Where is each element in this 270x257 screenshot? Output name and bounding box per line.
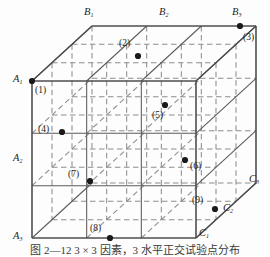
vertex-label-subscript: 1 <box>206 233 209 239</box>
lattice-point-9 <box>212 206 218 212</box>
vertex-label-subscript: 2 <box>230 208 233 214</box>
point-label-9: (9) <box>192 196 203 206</box>
vertex-label-subscript: 2 <box>19 158 22 164</box>
vertex-label-base: C <box>223 202 230 213</box>
point-label-5: (5) <box>152 111 163 121</box>
vertex-label-C3: C3 <box>249 174 259 185</box>
lattice-point-dots <box>29 23 243 241</box>
lattice-point-1 <box>29 78 35 84</box>
grid-line-depth <box>141 183 201 238</box>
lattice-point-5 <box>162 102 168 108</box>
vertex-label-subscript: 1 <box>19 79 22 85</box>
lattice-point-2 <box>135 53 141 59</box>
grid-line-depth <box>32 183 92 238</box>
grid-line-depth <box>196 78 256 133</box>
grid-line-depth <box>141 26 201 81</box>
cube-edge <box>32 26 92 81</box>
lattice-point-6 <box>182 157 188 163</box>
grid-line-depth <box>32 131 92 186</box>
figure-caption: 图 2—12 3 × 3 因素，3 水平正交试验点分布 <box>0 241 270 257</box>
vertex-label-B1: B1 <box>84 7 93 18</box>
point-label-7: (7) <box>68 170 79 180</box>
grid-line-depth <box>196 131 256 186</box>
lattice-point-4 <box>59 129 65 135</box>
vertex-label-subscript: 1 <box>90 12 93 18</box>
grid-line-depth <box>87 78 147 133</box>
point-label-1: (1) <box>35 86 46 96</box>
lattice-point-3 <box>237 23 243 29</box>
point-label-8: (8) <box>90 224 101 234</box>
point-label-2: (2) <box>119 39 130 49</box>
point-label-4: (4) <box>38 125 49 135</box>
vertex-label-B3: B3 <box>232 7 241 18</box>
lattice-point-7 <box>87 178 93 184</box>
grid-line-depth <box>141 78 201 133</box>
vertex-label-base: C <box>199 227 206 238</box>
vertex-label-base: C <box>249 173 256 184</box>
vertex-label-subscript: 3 <box>256 179 259 185</box>
vertex-label-C2: C2 <box>223 203 233 214</box>
point-label-6: (6) <box>190 162 201 172</box>
vertex-label-C1: C1 <box>199 228 209 239</box>
vertex-label-subscript: 3 <box>238 12 241 18</box>
vertex-label-B2: B2 <box>159 7 168 18</box>
vertex-label-subscript: 2 <box>165 12 168 18</box>
grid-line-depth <box>141 131 201 186</box>
vertex-label-A2: A2 <box>13 153 22 164</box>
vertex-label-A3: A3 <box>13 231 22 242</box>
vertex-label-A1: A1 <box>13 74 22 85</box>
grid-line-depth <box>87 131 147 186</box>
point-label-3: (3) <box>243 33 254 43</box>
